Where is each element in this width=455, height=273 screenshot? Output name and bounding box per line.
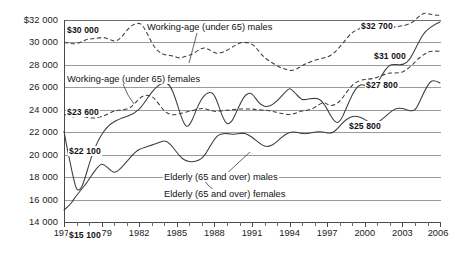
- leader-working-age-females: [122, 82, 134, 104]
- value-label-end-elderly-males: $31 000: [373, 51, 407, 61]
- series-label-elderly-females: Elderly (65 and over) females: [163, 189, 286, 199]
- value-label-end-elderly-females: $25 800: [348, 121, 382, 131]
- value-label-end-working-age-females: $27 800: [365, 80, 399, 90]
- value-label-start-elderly-females: $15 100: [68, 230, 102, 240]
- leader-working-age-males: [189, 33, 197, 63]
- chart-root: $32 000 30 000 28 000 26 000 24 000 22 0…: [0, 0, 455, 273]
- series-label-working-age-males: Working-age (under 65) males: [146, 22, 273, 32]
- series-label-elderly-males: Elderly (65 and over) males: [163, 172, 279, 182]
- series-label-working-age-females: Working-age (under 65) females: [66, 74, 201, 84]
- series-elderly-males: [64, 22, 440, 190]
- value-label-start-working-age-males: $30 000: [66, 25, 100, 35]
- value-label-end-working-age-males: $32 700: [360, 21, 394, 31]
- value-label-start-working-age-females: $23 600: [66, 107, 100, 117]
- value-label-start-elderly-males: $22 100: [68, 146, 102, 156]
- line-elderly-males: [64, 22, 440, 190]
